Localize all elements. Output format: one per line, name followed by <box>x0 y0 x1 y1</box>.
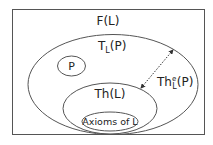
gap-label: TheL(P) <box>156 75 193 91</box>
diagram-canvas: F(L) TL(P) P Th(L) Axioms of L TheL(P) <box>0 0 213 145</box>
p-label: P <box>68 60 75 73</box>
formula-set-label: F(L) <box>97 14 120 28</box>
axioms-label: Axioms of L <box>82 116 138 127</box>
theory-of-l-label: Th(L) <box>94 87 126 101</box>
theory-of-p-label: TL(P) <box>97 39 126 55</box>
